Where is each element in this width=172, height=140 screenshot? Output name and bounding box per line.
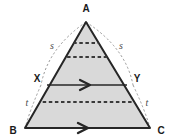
vertex-label-b: B <box>9 125 16 136</box>
triangle-abc <box>25 22 150 128</box>
arc-label-right-upper-s: s <box>119 40 123 51</box>
point-label-y: Y <box>134 73 141 84</box>
triangle-diagram-svg: A B C X Y s s t t <box>0 0 172 140</box>
point-label-x: X <box>34 73 41 84</box>
arc-label-right-lower-t: t <box>146 97 149 108</box>
arc-label-left-upper-s: s <box>50 40 54 51</box>
arc-label-left-lower-t: t <box>26 97 29 108</box>
vertex-label-a: A <box>82 3 89 14</box>
geometry-figure: A B C X Y s s t t <box>0 0 172 140</box>
vertex-label-c: C <box>157 125 164 136</box>
